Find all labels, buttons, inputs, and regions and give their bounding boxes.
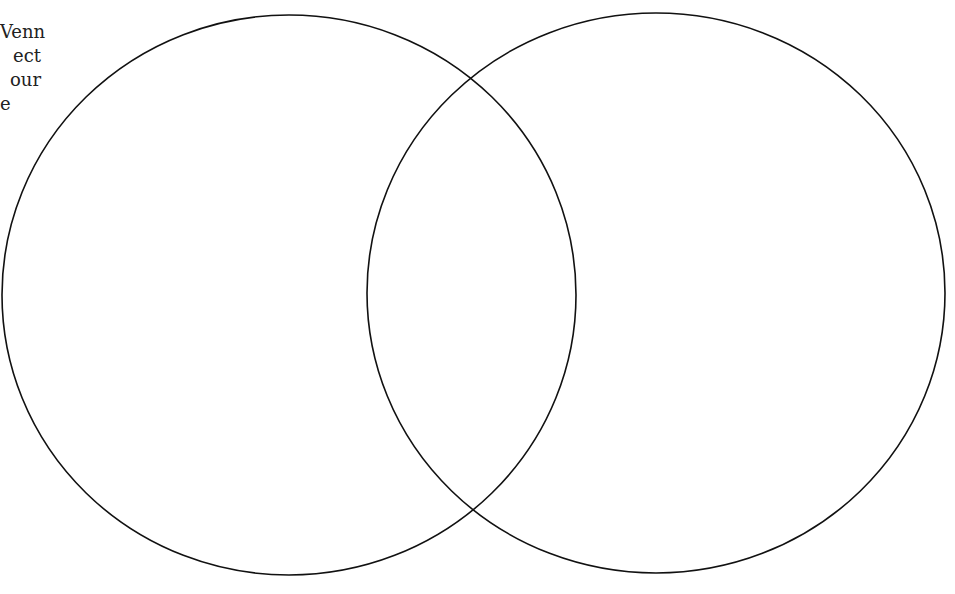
venn-circle-left [2, 15, 576, 575]
venn-diagram [0, 0, 955, 594]
venn-circle-right [367, 13, 945, 573]
